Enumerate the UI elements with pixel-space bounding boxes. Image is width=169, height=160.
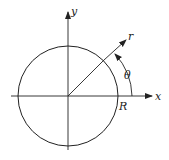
radius-line <box>68 60 104 96</box>
polar-diagram: y x r θ R <box>0 0 169 160</box>
radius-R-label: R <box>118 100 127 113</box>
theta-label: θ <box>124 69 131 82</box>
y-axis-label: y <box>70 5 78 18</box>
r-label: r <box>128 30 134 43</box>
r-direction-arrow <box>104 40 126 60</box>
x-axis-label: x <box>155 90 162 103</box>
